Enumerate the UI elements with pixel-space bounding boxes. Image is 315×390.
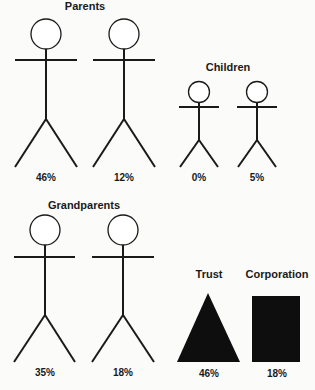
grandparent-2-stick-figure-icon [92, 215, 154, 362]
group-trust: Trust 46% [177, 268, 240, 379]
grandparent-2-percentage: 18% [113, 367, 133, 378]
grandparent-1-stick-figure-icon [14, 215, 75, 362]
ownership-diagram: Parents 46% 12% Children [0, 0, 315, 390]
diagram-svg: Parents 46% 12% Children [0, 0, 315, 390]
trust-percentage: 46% [199, 368, 219, 379]
grandparent-1-percentage: 35% [35, 367, 55, 378]
group-children: Children 0% 5% [179, 61, 277, 183]
parent-2-percentage: 12% [114, 172, 134, 183]
corporation-rectangle-icon [252, 296, 300, 362]
group-title-children: Children [206, 61, 251, 73]
group-title-grandparents: Grandparents [48, 199, 120, 211]
group-grandparents: Grandparents 35% 18% [14, 199, 154, 378]
group-title-trust: Trust [196, 268, 223, 280]
group-corporation: Corporation 18% [246, 268, 309, 379]
parent-1-percentage: 46% [36, 172, 56, 183]
child-1-percentage: 0% [192, 172, 207, 183]
child-2-stick-figure-icon [237, 82, 277, 168]
group-title-parents: Parents [65, 0, 105, 12]
parent-2-stick-figure-icon [93, 19, 155, 167]
parent-1-stick-figure-icon [15, 19, 77, 167]
group-title-corporation: Corporation [246, 268, 309, 280]
trust-triangle-icon [177, 293, 240, 362]
group-parents: Parents 46% 12% [15, 0, 155, 183]
child-1-stick-figure-icon [179, 82, 219, 168]
corporation-percentage: 18% [267, 368, 287, 379]
child-2-percentage: 5% [250, 172, 265, 183]
